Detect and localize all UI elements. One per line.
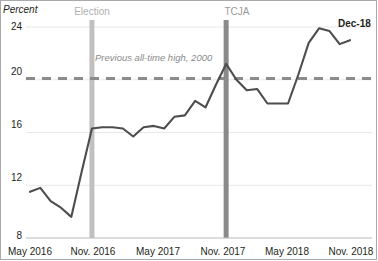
y-tick-label-16: 16: [0, 119, 22, 130]
y-tick-label-12: 12: [0, 172, 22, 183]
y-tick-label-20: 20: [0, 66, 22, 77]
endpoint-label-dec18: Dec-18: [338, 18, 371, 29]
marker-label-tcja: TCJA: [192, 6, 282, 17]
chart-plot-area: [0, 0, 378, 261]
x-tick-label-0: May 2016: [0, 246, 65, 257]
x-tick-label-5: Nov. 2018: [316, 246, 378, 257]
chart-container: Percent 24 20 16 12 8 May 2016 Nov. 2016…: [0, 0, 378, 261]
x-tick-label-4: May 2018: [252, 246, 322, 257]
x-tick-label-1: Nov. 2016: [58, 246, 128, 257]
x-tick-label-3: Nov. 2017: [188, 246, 258, 257]
gridlines: [26, 27, 372, 185]
y-tick-label-24: 24: [0, 21, 22, 32]
x-tick-label-2: May 2017: [123, 246, 193, 257]
marker-label-election: Election: [47, 6, 137, 17]
reference-line-label: Previous all-time high, 2000: [95, 52, 212, 63]
y-tick-label-8: 8: [0, 230, 22, 241]
